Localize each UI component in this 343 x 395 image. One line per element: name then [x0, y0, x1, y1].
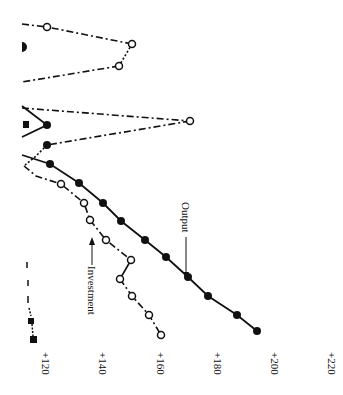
tick-160: +160 — [155, 352, 167, 375]
other-series — [22, 42, 37, 343]
tick-200: +200 — [269, 352, 281, 375]
investment-annotation: Investment — [86, 237, 98, 315]
tick-220: +220 — [326, 352, 338, 375]
tick-180: +180 — [212, 352, 224, 375]
output-annotation: Output — [180, 202, 192, 280]
tick-120: +120 — [40, 352, 52, 375]
rotated-line-chart: Output Investment +120 +140 +160 +180 +2… — [0, 0, 343, 395]
tick-140: +140 — [97, 352, 109, 375]
investment-label: Investment — [86, 266, 98, 315]
value-axis-ticks: +120 +140 +160 +180 +200 +220 — [40, 352, 338, 375]
investment-series-lower — [24, 24, 194, 339]
output-series — [22, 106, 261, 335]
output-label: Output — [180, 202, 192, 233]
